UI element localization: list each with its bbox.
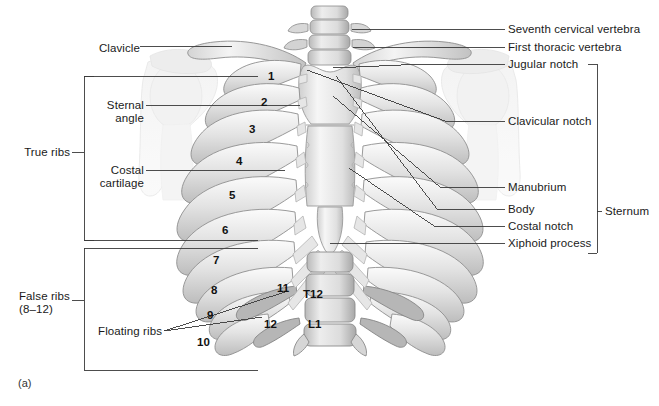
label-costal-notch: Costal notch — [508, 220, 573, 233]
label-false-ribs: False ribs (8–12) — [19, 290, 81, 316]
label-costal-cartilage: Costal cartilage — [78, 164, 144, 190]
label-first-thoracic-vertebra: First thoracic vertebra — [508, 41, 622, 54]
sternum — [299, 65, 362, 254]
rib-cage-anatomy-figure: Clavicle Sternal angle True ribs Costal … — [0, 0, 659, 406]
rib-number-4: 4 — [236, 155, 242, 167]
rib-number-3: 3 — [249, 123, 255, 135]
rib-number-12: 12 — [264, 318, 277, 330]
label-true-ribs: True ribs — [10, 146, 70, 159]
label-clavicular-notch: Clavicular notch — [508, 115, 591, 128]
rib-number-6: 6 — [222, 224, 228, 236]
rib-number-11: 11 — [277, 282, 289, 294]
rib-number-2: 2 — [261, 96, 267, 108]
rib-number-1: 1 — [268, 70, 274, 82]
rib-number-10: 10 — [197, 336, 210, 348]
rib-number-8: 8 — [211, 284, 217, 296]
label-clavicle: Clavicle — [95, 42, 140, 55]
upper-vertebrae — [284, 6, 375, 65]
panel-label: (a) — [18, 377, 31, 389]
label-floating-ribs: Floating ribs — [86, 325, 162, 338]
label-jugular-notch: Jugular notch — [508, 58, 578, 71]
label-xiphoid-process: Xiphoid process — [508, 237, 591, 250]
rib-number-7: 7 — [213, 254, 219, 266]
label-manubrium: Manubrium — [508, 181, 566, 194]
label-sternum: Sternum — [605, 205, 649, 218]
label-body: Body — [508, 203, 535, 216]
label-vertebra-t12: T12 — [303, 288, 323, 300]
label-vertebra-l1: L1 — [308, 318, 321, 330]
label-seventh-cervical-vertebra: Seventh cervical vertebra — [508, 23, 640, 36]
rib-number-9: 9 — [207, 309, 213, 321]
rib-number-5: 5 — [229, 189, 235, 201]
label-sternal-angle: Sternal angle — [78, 99, 144, 125]
